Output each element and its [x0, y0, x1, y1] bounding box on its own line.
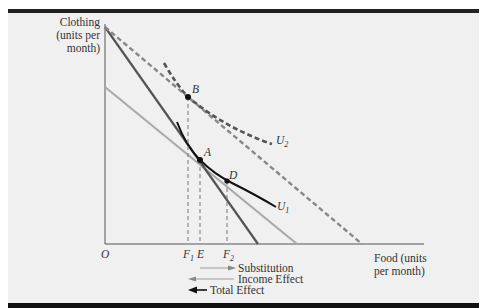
total-arrow-head — [188, 287, 197, 294]
label-a: A — [204, 146, 211, 158]
point-a — [197, 157, 203, 163]
point-b — [185, 94, 191, 100]
label-b: B — [192, 83, 199, 95]
hypothetical-budget-line — [105, 87, 297, 244]
y-axis-label: Clothing (units per month) — [40, 16, 100, 55]
label-u2: U2 — [276, 134, 288, 151]
income-arrow-head — [188, 277, 196, 282]
x-label-line-2: per month) — [374, 265, 454, 278]
y-label-line-3: month) — [40, 42, 100, 55]
substitution-arrow-head — [228, 266, 236, 271]
tick-f1: F1 — [183, 248, 194, 265]
y-label-line-2: (units per — [40, 29, 100, 42]
x-label-line-1: Food (units — [374, 252, 454, 265]
y-label-line-1: Clothing — [40, 16, 100, 29]
original-budget-line — [105, 27, 362, 244]
x-axis-label: Food (units per month) — [374, 252, 454, 278]
origin-label: O — [101, 248, 109, 260]
tick-e: E — [197, 248, 204, 260]
legend-total: Total Effect — [210, 284, 264, 296]
label-d: D — [229, 169, 237, 181]
indifference-curve-u1 — [177, 122, 276, 207]
tick-f2: F2 — [223, 248, 234, 265]
label-u1: U1 — [277, 200, 289, 217]
